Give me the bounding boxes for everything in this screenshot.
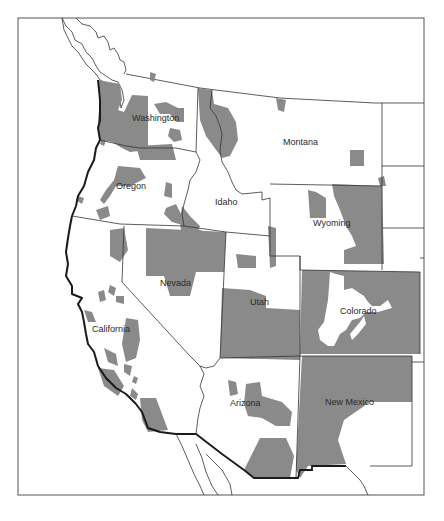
label-utah: Utah xyxy=(250,297,269,307)
label-arizona: Arizona xyxy=(230,398,261,408)
label-washington: Washington xyxy=(132,113,179,123)
label-idaho: Idaho xyxy=(215,197,238,207)
label-oregon: Oregon xyxy=(116,181,146,191)
western-us-map: Washington Oregon California Idaho Nevad… xyxy=(0,0,444,521)
label-new-mexico: New Mexico xyxy=(325,397,374,407)
colorado-dot xyxy=(338,280,342,284)
label-montana: Montana xyxy=(283,137,318,147)
label-california: California xyxy=(92,324,130,334)
label-wyoming: Wyoming xyxy=(313,218,350,228)
label-colorado: Colorado xyxy=(340,306,377,316)
label-nevada: Nevada xyxy=(160,278,191,288)
